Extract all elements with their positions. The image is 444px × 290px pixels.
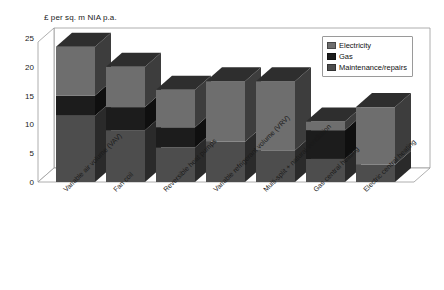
legend-swatch-maintenance (327, 64, 336, 71)
legend-item-maintenance: Maintenance/repairs (327, 62, 407, 73)
bar-segment (206, 67, 261, 141)
legend-swatch-electricity (327, 42, 336, 49)
legend-item-electricity: Electricity (327, 40, 407, 51)
chart-legend: Electricity Gas Maintenance/repairs (322, 36, 413, 77)
legend-label-electricity: Electricity (339, 40, 371, 51)
legend-item-gas: Gas (327, 51, 407, 62)
legend-swatch-gas (327, 53, 336, 60)
legend-label-gas: Gas (339, 51, 353, 62)
bar-segment (56, 33, 111, 96)
bar-segment (156, 76, 211, 127)
chart-container: £ per sq. m NIA p.a. 25 20 15 10 5 0 Var… (0, 0, 444, 290)
legend-label-maintenance: Maintenance/repairs (339, 62, 407, 73)
bar-segment (106, 53, 161, 107)
